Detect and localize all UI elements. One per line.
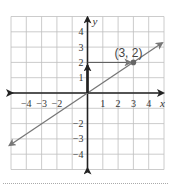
y-tick-label: −3 — [73, 133, 84, 144]
y-axis-label: y — [92, 15, 98, 27]
x-tick-label: 1 — [100, 98, 105, 109]
x-tick-label: 3 — [131, 98, 136, 109]
data-point — [131, 60, 137, 66]
y-tick-label: 3 — [79, 42, 84, 53]
coordinate-plane: xy−4−3−212344321−2−3−4(3, 2) — [0, 0, 180, 190]
dotted-divider — [3, 183, 168, 184]
y-tick-label: 2 — [79, 57, 84, 68]
x-tick-label: −2 — [52, 98, 63, 109]
y-tick-label: 4 — [79, 26, 84, 37]
x-tick-label: −4 — [21, 98, 32, 109]
tick-labels: xy−4−3−212344321−2−3−4(3, 2) — [21, 15, 165, 160]
x-tick-label: −3 — [36, 98, 47, 109]
x-tick-label: 2 — [116, 98, 121, 109]
y-tick-label: 1 — [79, 72, 84, 83]
y-tick-label: −4 — [73, 149, 84, 160]
x-axis-label: x — [159, 97, 165, 109]
point-label: (3, 2) — [114, 46, 142, 60]
y-tick-label: −2 — [73, 118, 84, 129]
x-tick-label: 4 — [146, 98, 151, 109]
